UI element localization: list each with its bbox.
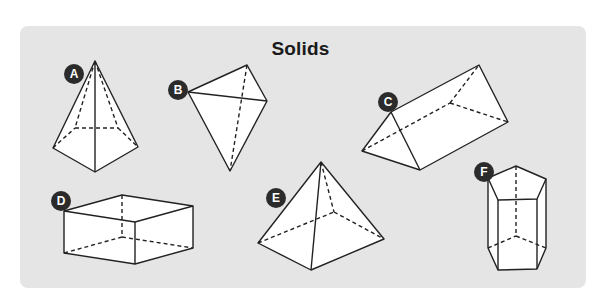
solids-figure xyxy=(0,0,601,306)
solid-d-rectangular-prism xyxy=(64,195,193,264)
label-badge-e: E xyxy=(266,188,286,208)
label-badge-a: A xyxy=(64,64,84,84)
label-badge-f: F xyxy=(474,162,494,182)
solid-c-triangular-prism xyxy=(362,65,508,170)
label-badge-d: D xyxy=(51,191,71,211)
label-badge-b: B xyxy=(168,80,188,100)
solid-e-square-pyramid xyxy=(258,162,384,270)
solid-f-pentagonal-prism xyxy=(488,166,546,270)
solid-b-tetrahedron xyxy=(188,65,267,171)
label-badge-c: C xyxy=(378,92,398,112)
